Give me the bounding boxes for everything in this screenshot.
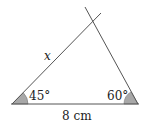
side-label-x: x — [44, 49, 51, 63]
angle-label-60: 60° — [107, 89, 128, 103]
triangle-diagram: x 45° 60° 8 cm — [0, 0, 145, 124]
angle-marker-left — [12, 93, 28, 104]
base-label: 8 cm — [62, 109, 92, 123]
left-side — [12, 13, 101, 104]
angle-label-45: 45° — [29, 89, 50, 103]
